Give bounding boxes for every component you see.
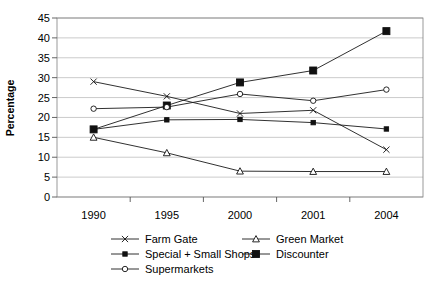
data-point xyxy=(90,126,97,133)
y-tick-label: 35 xyxy=(38,52,50,64)
y-tick-label: 25 xyxy=(38,92,50,104)
y-axis-title: Percentage xyxy=(4,80,16,137)
data-point xyxy=(311,98,316,103)
data-point xyxy=(384,87,389,92)
data-point xyxy=(384,127,388,131)
legend-marker xyxy=(123,252,127,256)
legend-marker xyxy=(253,251,260,258)
data-point xyxy=(311,120,315,124)
legend-label: Farm Gate xyxy=(145,233,198,245)
x-tick-label: 1990 xyxy=(81,209,105,221)
data-point xyxy=(238,117,242,121)
legend-label: Green Market xyxy=(276,233,343,245)
data-point xyxy=(237,91,242,96)
x-tick-label: 2004 xyxy=(374,209,398,221)
x-tick-label: 1995 xyxy=(155,209,179,221)
data-point xyxy=(165,118,169,122)
line-chart: 454035302520151050 19901995200020012004 … xyxy=(0,0,438,293)
chart-canvas: 454035302520151050 19901995200020012004 … xyxy=(0,0,438,293)
x-tick-label: 2000 xyxy=(228,209,252,221)
legend-marker xyxy=(122,266,127,271)
y-tick-label: 0 xyxy=(44,191,50,203)
legend-label: Special + Small Shops xyxy=(145,248,256,260)
y-tick-label: 15 xyxy=(38,131,50,143)
y-tick-label: 10 xyxy=(38,151,50,163)
legend-label: Supermarkets xyxy=(145,263,214,275)
x-tick-label: 2001 xyxy=(301,209,325,221)
y-tick-label: 40 xyxy=(38,32,50,44)
data-point xyxy=(164,104,169,109)
data-point xyxy=(383,28,390,35)
y-tick-label: 45 xyxy=(38,12,50,24)
y-tick-label: 20 xyxy=(38,111,50,123)
data-point xyxy=(310,67,317,74)
y-tick-label: 5 xyxy=(44,171,50,183)
legend-label: Discounter xyxy=(276,248,329,260)
data-point xyxy=(237,79,244,86)
data-point xyxy=(91,106,96,111)
y-tick-label: 30 xyxy=(38,72,50,84)
